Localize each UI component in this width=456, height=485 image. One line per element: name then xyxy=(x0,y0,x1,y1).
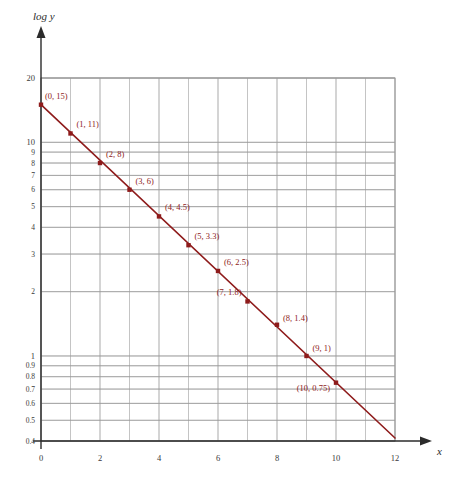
data-point-marker xyxy=(334,380,338,384)
y-tick-label: 1 xyxy=(31,351,35,361)
y-tick-label: 3 xyxy=(31,250,35,259)
x-tick-label: 10 xyxy=(332,453,341,463)
data-point-label: (6, 2.5) xyxy=(224,257,249,267)
data-point-label: (7, 1.8) xyxy=(217,287,242,297)
y-axis xyxy=(37,26,46,449)
x-tick-label: 12 xyxy=(391,453,400,463)
y-tick-label: 8 xyxy=(31,159,35,168)
chart-canvas: 20109876543210.90.80.70.60.50.4 24681012… xyxy=(0,0,456,485)
vertical-gridlines xyxy=(41,78,395,441)
y-tick-label: 20 xyxy=(27,73,36,83)
x-tick-labels: 24681012 xyxy=(98,453,399,463)
log-plot-figure: 20109876543210.90.80.70.60.50.4 24681012… xyxy=(0,0,456,485)
y-tick-label: 5 xyxy=(31,202,35,211)
y-tick-label: 0.7 xyxy=(26,385,36,394)
y-tick-label: 4 xyxy=(31,223,35,232)
data-point-marker xyxy=(245,299,249,303)
data-point-label: (1, 11) xyxy=(77,119,100,129)
data-point-label: (9, 1) xyxy=(313,343,332,353)
origin-tick-label: 0 xyxy=(39,453,43,463)
x-tick-label: 8 xyxy=(275,453,279,463)
data-point-label: (8, 1.4) xyxy=(283,313,308,323)
data-point-marker xyxy=(216,269,220,273)
x-tick-label: 2 xyxy=(98,453,102,463)
y-tick-label: 2 xyxy=(31,287,35,296)
data-point-label: (4, 4.5) xyxy=(165,202,190,212)
y-tick-label: 10 xyxy=(27,137,36,147)
data-point-label: (5, 3.3) xyxy=(195,231,220,241)
data-point-label: (10, 0.75) xyxy=(297,383,330,393)
x-axis-title: x xyxy=(436,445,442,457)
data-point-marker xyxy=(39,102,43,106)
data-point-marker xyxy=(127,188,131,192)
data-point-labels: (0, 15)(1, 11)(2, 8)(3, 6)(4, 4.5)(5, 3.… xyxy=(45,91,331,393)
y-axis-title: log y xyxy=(33,10,55,22)
data-point-marker xyxy=(157,214,161,218)
data-point-marker xyxy=(186,243,190,247)
x-tick-label: 6 xyxy=(216,453,220,463)
data-point-label: (3, 6) xyxy=(136,176,155,186)
y-tick-label: 0.5 xyxy=(26,416,36,425)
y-tick-label: 0.4 xyxy=(26,437,36,446)
y-tick-label: 6 xyxy=(31,185,35,194)
y-tick-label: 0.9 xyxy=(26,361,36,370)
data-point-marker xyxy=(98,161,102,165)
y-tick-label: 0.6 xyxy=(26,399,36,408)
data-point-label: (2, 8) xyxy=(106,149,125,159)
x-axis xyxy=(33,437,432,446)
y-tick-label: 7 xyxy=(31,171,35,180)
y-tick-labels: 20109876543210.90.80.70.60.50.4 xyxy=(26,73,36,446)
data-point-marker xyxy=(68,131,72,135)
y-tick-label: 9 xyxy=(31,148,35,157)
data-point-label: (0, 15) xyxy=(45,91,68,101)
data-point-marker xyxy=(304,354,308,358)
x-tick-label: 4 xyxy=(157,453,162,463)
y-tick-label: 0.8 xyxy=(26,372,36,381)
data-point-marker xyxy=(275,323,279,327)
